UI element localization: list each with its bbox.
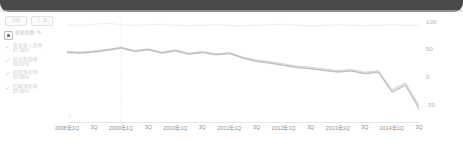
y-axis-tick-label: -50 bbox=[426, 102, 435, 108]
check-icon[interactable]: ✓ bbox=[4, 58, 11, 65]
chart-plot-area bbox=[67, 17, 419, 123]
legend-item-text: 原始指数 % bbox=[15, 30, 41, 35]
series-line bbox=[67, 47, 419, 105]
options-button[interactable]: 三 选 bbox=[31, 16, 53, 26]
x-axis-tick-label: 3Q bbox=[253, 124, 260, 130]
x-axis-tick-label: 2008年1Q bbox=[55, 124, 79, 131]
x-axis-tick-label: 3Q bbox=[145, 124, 152, 130]
line-chart-svg bbox=[67, 17, 419, 123]
x-axis-tick-label: 3Q bbox=[91, 124, 98, 130]
legend-toolbar: 比较 三 选 bbox=[5, 16, 67, 25]
y-axis-tick-label: 50 bbox=[426, 46, 433, 52]
x-axis-tick-label: 2009年1Q bbox=[109, 124, 133, 131]
chart-screenshot: 比较 三 选 原始指数 %✓营业收入利率87.68%✓营业利润率60.07%✓利… bbox=[0, 0, 463, 148]
series-line bbox=[67, 23, 419, 26]
y-axis-tick-label: 100 bbox=[426, 19, 437, 25]
x-axis: 2008年1Q3Q2009年1Q3Q2010年1Q3Q2011年1Q3Q2012… bbox=[67, 124, 419, 138]
legend-list: 原始指数 %✓营业收入利率87.68%✓营业利润率60.07%✓利润净利率50.… bbox=[3, 30, 67, 94]
x-axis-tick-label: 2012年1Q bbox=[272, 124, 296, 131]
check-icon[interactable]: ✓ bbox=[4, 44, 11, 51]
compare-button[interactable]: 比较 bbox=[5, 16, 27, 26]
check-icon[interactable]: ✓ bbox=[4, 85, 11, 92]
legend-item-text: 利润净利率50.66% bbox=[13, 70, 39, 81]
x-axis-tick-label: 2013年1Q bbox=[326, 124, 350, 131]
x-axis-tick-label: 3Q bbox=[361, 124, 368, 130]
legend-item-series-top[interactable]: 原始指数 % bbox=[4, 30, 67, 40]
x-axis-tick-label: 3Q bbox=[415, 124, 422, 130]
legend-item-value: 50.66% bbox=[13, 75, 39, 80]
check-icon[interactable]: ✓ bbox=[4, 71, 11, 78]
axis-corner-note: Q bbox=[68, 113, 71, 118]
x-axis-line bbox=[67, 122, 419, 123]
x-axis-tick-label: 3Q bbox=[199, 124, 206, 130]
x-axis-tick-label: 2010年1Q bbox=[163, 124, 187, 131]
x-axis-tick-label: 2014年1Q bbox=[380, 124, 404, 131]
legend-item-value: 56.88% bbox=[13, 89, 39, 94]
legend-item-text: 营业收入利率87.68% bbox=[13, 43, 44, 54]
y-axis-tick-label: 0 bbox=[426, 74, 430, 80]
x-axis-tick-label: 2011年1Q bbox=[218, 124, 242, 131]
legend-item-value: 87.68% bbox=[13, 48, 44, 53]
y-axis: 100500-50 bbox=[426, 17, 462, 123]
legend-item-text: 归属净利率56.88% bbox=[13, 84, 39, 95]
series-line bbox=[67, 48, 419, 108]
top-bar-sheen bbox=[0, 10, 463, 12]
legend-item-series-fifth[interactable]: ✓归属净利率56.88% bbox=[4, 84, 67, 95]
legend-panel: 比较 三 选 原始指数 %✓营业收入利率87.68%✓营业利润率60.07%✓利… bbox=[3, 15, 67, 133]
window-top-bar bbox=[0, 0, 463, 12]
legend-item-value: 60.07% bbox=[13, 62, 39, 67]
legend-item-series-third[interactable]: ✓营业利润率60.07% bbox=[4, 57, 67, 68]
legend-item-series-fourth[interactable]: ✓利润净利率50.66% bbox=[4, 70, 67, 81]
x-axis-tick-label: 3Q bbox=[307, 124, 314, 130]
legend-item-label: 原始指数 % bbox=[15, 30, 41, 35]
checkbox-icon[interactable] bbox=[4, 31, 13, 40]
legend-item-text: 营业利润率60.07% bbox=[13, 57, 39, 68]
legend-item-series-second[interactable]: ✓营业收入利率87.68% bbox=[4, 43, 67, 54]
